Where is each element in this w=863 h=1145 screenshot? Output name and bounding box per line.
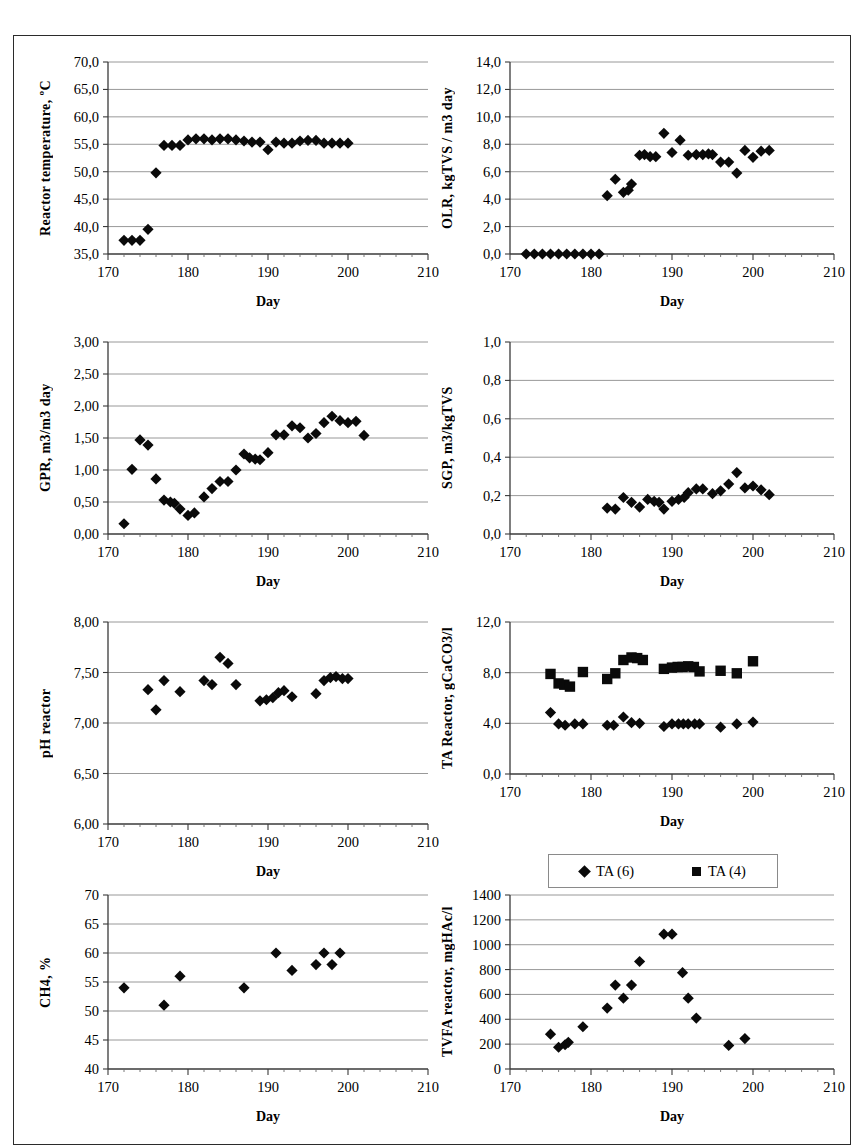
x-axis-label: Day: [510, 294, 834, 310]
y-axis-label: SGP, m3/kgTVS: [440, 342, 456, 534]
y-tick-label: 65,0: [74, 82, 99, 97]
y-tick-label: 1,0: [483, 335, 501, 350]
x-tick-label: 210: [417, 835, 439, 850]
legend-entry-ta4: TA (4): [692, 863, 746, 880]
data-point-diamond: [677, 967, 688, 978]
series-ta-6-: [545, 707, 759, 733]
panel-grid: 35,040,045,050,055,060,065,070,017018019…: [14, 36, 850, 1144]
data-point-diamond: [286, 138, 297, 149]
data-point-square: [545, 669, 555, 679]
data-point-diamond: [286, 965, 297, 976]
data-point-diamond: [608, 720, 619, 731]
y-tick-label: 0,0: [483, 767, 501, 782]
y-axis-label: pH reactor: [38, 622, 54, 824]
data-point-square: [565, 681, 575, 691]
y-tick-label: 50,0: [74, 164, 99, 179]
x-tick-label: 190: [661, 265, 683, 280]
data-point-diamond: [358, 430, 369, 441]
y-tick-label: 2,0: [483, 219, 501, 234]
plot-area-tvfa-reactor: 0200400600800100012001400170180190200210…: [438, 881, 842, 1143]
data-point-diamond: [142, 684, 153, 695]
data-point-diamond: [350, 416, 361, 427]
y-tick-label: 65: [85, 917, 100, 932]
data-point-diamond: [118, 982, 129, 993]
x-tick-label: 210: [417, 545, 439, 560]
data-point-square: [748, 656, 758, 666]
plot-area-sgp: 0,00,20,40,60,81,0170180190200210SGP, m3…: [438, 328, 842, 608]
data-point-diamond: [158, 675, 169, 686]
data-point-diamond: [206, 483, 217, 494]
y-axis-label: GPR, m3/m3 day: [38, 342, 54, 534]
legend-label-ta6: TA (6): [596, 863, 634, 880]
y-tick-label: 4,0: [483, 716, 501, 731]
y-tick-label: 6,50: [74, 766, 99, 781]
ta-legend: TA (6) TA (4): [548, 854, 778, 888]
x-tick-label: 210: [823, 1080, 845, 1095]
data-point-diamond: [739, 145, 750, 156]
legend-entry-ta6: TA (6): [580, 863, 634, 880]
data-point-diamond: [294, 422, 305, 433]
chart-panel-tvfa-reactor: 0200400600800100012001400170180190200210…: [438, 881, 842, 1143]
y-tick-label: 800: [479, 962, 501, 977]
data-point-diamond: [739, 482, 750, 493]
data-point-diamond: [150, 704, 161, 715]
data-point-diamond: [286, 420, 297, 431]
data-point-diamond: [174, 971, 185, 982]
y-axis-label: CH4, %: [38, 895, 54, 1069]
data-point-diamond: [158, 1000, 169, 1011]
x-tick-label: 200: [742, 785, 764, 800]
y-tick-label: 0,2: [483, 488, 501, 503]
y-tick-label: 12,0: [476, 82, 501, 97]
data-point-diamond: [594, 248, 605, 259]
chart-panel-olr: 0,02,04,06,08,010,012,014,01701801902002…: [438, 48, 842, 328]
plot-area-ch4: 40455055606570170180190200210CH4, %Day: [36, 881, 436, 1143]
y-tick-label: 1,50: [74, 431, 99, 446]
data-point-diamond: [174, 686, 185, 697]
data-point-diamond: [318, 417, 329, 428]
data-point-diamond: [142, 224, 153, 235]
x-axis-label: Day: [510, 1109, 834, 1125]
x-tick-label: 200: [337, 545, 359, 560]
data-point-diamond: [747, 152, 758, 163]
x-tick-label: 190: [257, 545, 279, 560]
data-point-diamond: [134, 235, 145, 246]
plot-area-ph-reactor: 6,006,507,007,508,00170180190200210pH re…: [36, 608, 436, 898]
x-axis-label: Day: [108, 574, 428, 590]
x-tick-label: 200: [742, 1080, 764, 1095]
y-tick-label: 1000: [472, 937, 501, 952]
x-tick-label: 200: [337, 1080, 359, 1095]
data-point-diamond: [610, 980, 621, 991]
x-tick-label: 180: [580, 545, 602, 560]
figure-frame: 35,040,045,050,055,060,065,070,017018019…: [13, 35, 851, 1145]
x-tick-label: 180: [580, 1080, 602, 1095]
y-tick-label: 6,00: [74, 817, 99, 832]
x-tick-label: 180: [580, 785, 602, 800]
y-tick-label: 0,4: [483, 450, 501, 465]
series-reactor-temperature: [118, 133, 353, 246]
y-tick-label: 2,00: [74, 399, 99, 414]
data-point-diamond: [310, 688, 321, 699]
data-point-diamond: [230, 679, 241, 690]
data-point-diamond: [723, 157, 734, 168]
data-point-diamond: [174, 140, 185, 151]
x-axis-label: Day: [108, 1109, 428, 1125]
data-point-diamond: [198, 491, 209, 502]
series-olr: [521, 128, 775, 260]
data-point-diamond: [310, 959, 321, 970]
y-axis-label: TA Reactor, gCaCO3/l: [440, 622, 456, 774]
y-tick-label: 45,0: [74, 192, 99, 207]
chart-panel-ch4: 40455055606570170180190200210CH4, %Day: [36, 881, 436, 1143]
data-point-diamond: [270, 947, 281, 958]
data-point-square: [610, 668, 620, 678]
data-point-diamond: [222, 476, 233, 487]
data-point-diamond: [222, 658, 233, 669]
y-tick-label: 40: [85, 1062, 100, 1077]
data-point-diamond: [626, 980, 637, 991]
data-point-diamond: [731, 467, 742, 478]
data-point-diamond: [747, 716, 758, 727]
series-ta-4-: [545, 652, 758, 692]
data-point-diamond: [126, 464, 137, 475]
data-point-square: [732, 668, 742, 678]
data-point-diamond: [326, 959, 337, 970]
y-tick-label: 0,50: [74, 495, 99, 510]
